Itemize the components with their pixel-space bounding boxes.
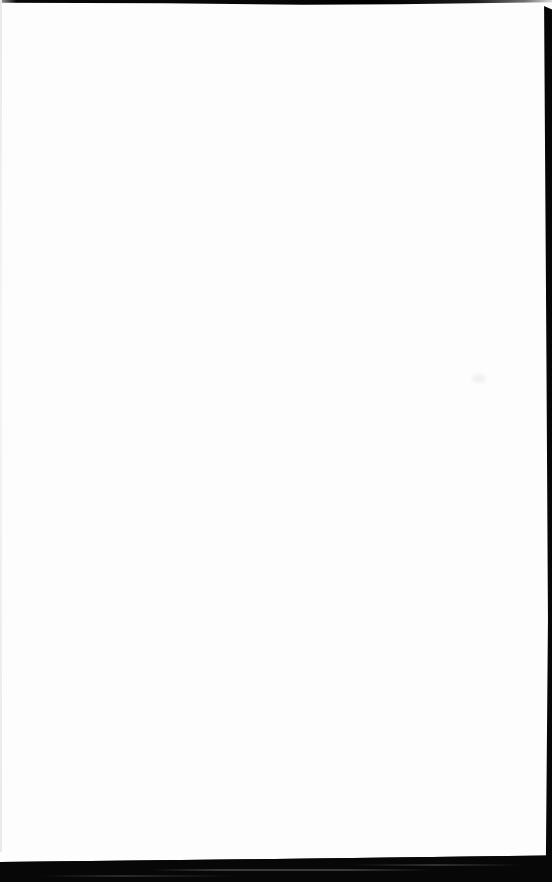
smudge-artifact — [472, 374, 486, 383]
scan-streak — [40, 875, 240, 877]
scan-edge-left — [0, 0, 2, 852]
scan-streak — [150, 869, 432, 871]
scanned-page — [0, 0, 552, 882]
scan-streak — [352, 864, 522, 866]
blank-page-surface — [0, 0, 552, 882]
